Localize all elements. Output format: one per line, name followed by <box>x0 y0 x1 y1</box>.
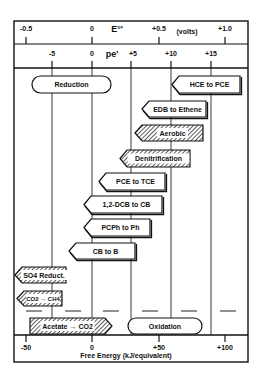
reaction-reduction: Reduction <box>32 76 111 93</box>
reaction-edb-to-ethene: EDB to Ethene <box>142 101 208 119</box>
reaction-pce-to-tce: PCE to TCE <box>99 173 167 192</box>
reaction-label: Oxidation <box>149 323 181 330</box>
reaction-oxidation: Oxidation <box>128 318 202 334</box>
reaction-label: SO4 Reduct. <box>23 272 65 279</box>
reaction-co2-ch4: CO2 → CH4 <box>17 291 62 306</box>
tick-label: +5 <box>129 50 137 57</box>
reaction-label: 1,2-DCB to CB <box>103 201 151 209</box>
e-volts-axis: -0.50+0.5+1.0E°'(volts) <box>20 24 232 44</box>
tick-label: -0.5 <box>20 25 32 32</box>
reaction-labels: ReductionHCE to PCEEDB to EtheneAerobicD… <box>15 76 242 334</box>
redox-ladder-diagram: -0.50+0.5+1.0E°'(volts) -50+5+10+15pe' -… <box>0 0 261 379</box>
axis-title: E°' <box>111 24 123 34</box>
reaction-cb-to-b: CB to B <box>69 243 137 261</box>
reaction-label: Acetate → CO2 <box>42 323 93 330</box>
tick-label: +0.5 <box>152 25 166 32</box>
reaction-aerobic: Aerobic <box>135 125 203 141</box>
tick-label: 0 <box>90 25 94 32</box>
reaction-label: Aerobic <box>159 130 185 137</box>
axis-unit: (volts) <box>177 28 198 36</box>
reaction-acetate-co2: Acetate → CO2 <box>30 318 112 334</box>
tick-label: 0 <box>90 50 94 57</box>
reaction-label: HCE to PCE <box>190 81 230 88</box>
reaction-label: Reduction <box>54 81 88 88</box>
tick-label: +15 <box>205 50 217 57</box>
reaction-denitrification: Denitrification <box>120 150 190 167</box>
tick-label: +100 <box>217 344 233 351</box>
pe-axis: -50+5+10+15pe' <box>49 49 217 68</box>
reaction-1-2-dcb-to-cb: 1,2-DCB to CB <box>84 196 164 215</box>
reaction-label: CO2 → CH4 <box>26 296 60 302</box>
free-energy-axis: -500+50+100Free Energy (kJ/equivalent) <box>21 335 233 360</box>
tick-label: -50 <box>21 344 31 351</box>
reaction-label: EDB to Ethene <box>153 106 202 113</box>
tick-label: +10 <box>165 50 177 57</box>
reaction-hce-to-pce: HCE to PCE <box>172 76 242 95</box>
tick-label: +1.0 <box>218 25 232 32</box>
reaction-label: CB to B <box>93 248 119 255</box>
diagram-canvas: -0.50+0.5+1.0E°'(volts) -50+5+10+15pe' -… <box>0 0 261 379</box>
axis-title: Free Energy (kJ/equivalent) <box>80 352 171 360</box>
tick-label: -5 <box>49 50 55 57</box>
reaction-label: PCE to TCE <box>116 178 155 185</box>
reaction-pcph-to-ph: PCPh to Ph <box>84 219 152 238</box>
tick-label: 0 <box>90 344 94 351</box>
axis-title: pe' <box>106 49 119 59</box>
reaction-so4-reduct: SO4 Reduct. <box>15 267 67 283</box>
tick-label: +50 <box>153 344 165 351</box>
reaction-label: PCPh to Ph <box>101 224 139 231</box>
reaction-label: Denitrification <box>135 155 182 162</box>
